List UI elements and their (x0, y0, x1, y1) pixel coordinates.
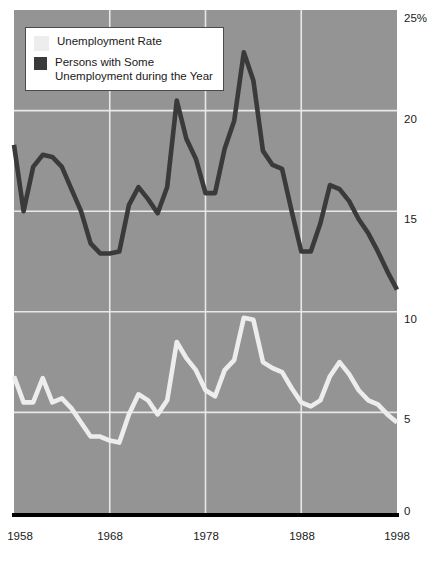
x-tick-label-1958: 1958 (0, 530, 40, 542)
legend-label-unemployment-rate: Unemployment Rate (57, 35, 162, 49)
x-tick-label-1978: 1978 (186, 530, 226, 542)
chart-legend: Unemployment Rate Persons with Some Unem… (25, 27, 224, 91)
unemployment-line-chart: 25% 20 15 10 5 0 1958 1968 1978 1988 199… (0, 0, 437, 563)
x-axis-line (12, 513, 399, 517)
y-tick-label-25: 25% (404, 12, 427, 24)
x-tick-label-1998: 1998 (377, 530, 417, 542)
y-tick-label-10: 10 (404, 313, 417, 325)
x-tick-label-1968: 1968 (90, 530, 130, 542)
legend-item-unemployment-rate: Unemployment Rate (34, 35, 213, 51)
y-tick-label-20: 20 (404, 113, 417, 125)
legend-swatch-persons-with-some-unemployment (34, 57, 47, 70)
x-tick-label-1988: 1988 (282, 530, 322, 542)
y-tick-label-5: 5 (404, 413, 410, 425)
y-tick-label-0: 0 (404, 505, 410, 517)
legend-label-persons-with-some-unemployment: Persons with Some Unemployment during th… (55, 56, 213, 83)
legend-item-persons-with-some-unemployment: Persons with Some Unemployment during th… (34, 56, 213, 83)
y-tick-label-15: 15 (404, 213, 417, 225)
legend-swatch-unemployment-rate (34, 36, 49, 51)
